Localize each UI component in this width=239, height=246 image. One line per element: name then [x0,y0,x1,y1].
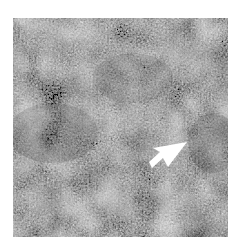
arrow-icon [13,18,228,237]
micrograph-image [13,18,228,237]
